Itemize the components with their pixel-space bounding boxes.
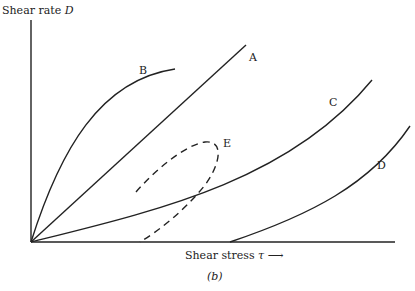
diagram-canvas bbox=[0, 0, 415, 291]
label-d: D bbox=[377, 159, 386, 172]
curve-d bbox=[230, 126, 410, 242]
label-e: E bbox=[223, 137, 231, 150]
curve-b bbox=[31, 69, 175, 242]
label-a: A bbox=[249, 51, 257, 64]
x-axis-label: Shear stress τ ⟶ bbox=[185, 249, 283, 262]
curve-c bbox=[31, 80, 372, 242]
label-c: C bbox=[329, 96, 337, 109]
label-b: B bbox=[139, 64, 147, 77]
figure-caption: (b) bbox=[207, 270, 223, 283]
y-axis-label: Shear rate D bbox=[2, 4, 74, 17]
